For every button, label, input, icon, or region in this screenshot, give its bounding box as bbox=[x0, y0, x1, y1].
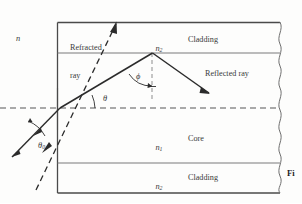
n2-bottom-subscript: 2 bbox=[160, 186, 163, 192]
reflected-ray-label: Reflected ray bbox=[205, 69, 249, 78]
theta-zero-subscript: 0 bbox=[42, 144, 45, 150]
n1-core-label: n1 bbox=[147, 134, 162, 163]
cladding-bottom-label: Cladding bbox=[188, 173, 218, 182]
theta-zero-angle-label: θ0 bbox=[22, 116, 45, 170]
refractive-index-n-label: n bbox=[16, 34, 20, 43]
core-label: Core bbox=[188, 134, 204, 143]
figure-page: n Refracted ray n2 Cladding Reflected ra… bbox=[0, 0, 302, 203]
n1-core-subscript: 1 bbox=[160, 147, 163, 153]
figure-caption: Fi rep me op bbox=[287, 145, 302, 203]
torn-edge bbox=[279, 22, 281, 193]
caption-line-1: rep bbox=[287, 203, 302, 204]
caption-title: Fi bbox=[287, 168, 302, 180]
cladding-top-label: Cladding bbox=[188, 35, 218, 44]
refracted-ray-label-line1: Refracted bbox=[70, 43, 102, 52]
n2-bottom-label: n2 bbox=[147, 173, 162, 202]
refracted-ray-label-line2: ray bbox=[70, 71, 102, 80]
phi-angle-label: ϕ bbox=[136, 72, 140, 81]
theta-angle-label: θ bbox=[103, 94, 107, 103]
n2-top-label: n2 bbox=[147, 35, 162, 64]
n2-top-subscript: 2 bbox=[160, 48, 163, 54]
refracted-ray-label: Refracted ray bbox=[70, 25, 102, 99]
